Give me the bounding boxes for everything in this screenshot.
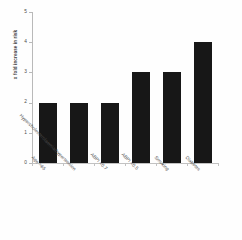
x-axis-labels: Age >65Hypercholesterolaemia/hypertensio… — [32, 165, 222, 237]
bar — [70, 103, 88, 163]
y-axis-tick: 5 — [29, 12, 32, 13]
plot-area: 012345 — [32, 12, 218, 163]
bar — [163, 72, 181, 163]
y-axis-tick-label: 0 — [24, 160, 27, 165]
bar — [194, 42, 212, 163]
y-axis-tick: 3 — [29, 72, 32, 73]
bar-chart: x fold increase in risk 012345 Age >65Hy… — [0, 0, 242, 240]
y-axis-tick-label: 2 — [24, 99, 27, 104]
y-axis-tick-label: 1 — [24, 130, 27, 135]
y-axis-title: x fold increase in risk — [13, 5, 18, 105]
y-axis-line — [32, 12, 33, 163]
y-axis-tick-label: 4 — [24, 39, 27, 44]
bar — [132, 72, 150, 163]
bar — [101, 103, 119, 163]
y-axis-tick: 1 — [29, 133, 32, 134]
y-axis-tick: 2 — [29, 103, 32, 104]
y-axis-tick: 4 — [29, 42, 32, 43]
y-axis-tick-label: 5 — [24, 9, 27, 14]
y-axis-tick-label: 3 — [24, 69, 27, 74]
